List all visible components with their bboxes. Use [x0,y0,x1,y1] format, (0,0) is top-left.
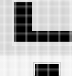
solid-block [35,64,59,76]
letter-l-glyph [14,2,72,42]
letter-l-foot [14,31,72,42]
screenshot-root [0,0,72,76]
